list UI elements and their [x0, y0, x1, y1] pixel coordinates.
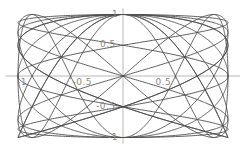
- y-tick-label-neg0_5: -0.5: [96, 102, 116, 111]
- y-tick-label-0_5: 0.5: [100, 40, 116, 49]
- x-tick-label-0_5: 0.5: [156, 78, 172, 87]
- plot-canvas: [0, 0, 240, 150]
- x-tick-label-neg1: -1: [17, 78, 27, 87]
- x-tick-label-neg0_5: -0.5: [73, 78, 93, 87]
- lissajous-plot: 1 0.5 -0.5 -1 -1 -0.5 0.5: [0, 0, 240, 150]
- y-tick-label-1: 1: [112, 10, 118, 19]
- y-tick-label-neg1: -1: [108, 133, 118, 142]
